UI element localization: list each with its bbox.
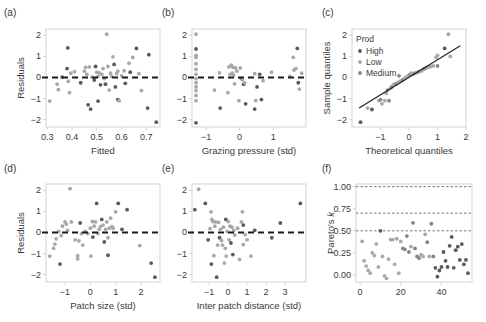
data-point bbox=[194, 32, 198, 36]
data-point bbox=[106, 236, 110, 240]
data-point bbox=[154, 120, 158, 124]
data-point bbox=[425, 240, 429, 244]
data-point bbox=[194, 68, 198, 72]
data-point bbox=[48, 99, 52, 103]
data-point bbox=[423, 232, 427, 236]
data-point bbox=[194, 85, 198, 89]
data-point bbox=[116, 69, 120, 73]
data-point bbox=[194, 81, 198, 85]
y-tick-label: −2 bbox=[177, 270, 187, 280]
data-point bbox=[68, 91, 72, 95]
data-point bbox=[59, 234, 63, 238]
y-tick-label: −1 bbox=[31, 94, 41, 104]
data-point bbox=[69, 71, 73, 75]
data-point bbox=[230, 225, 234, 229]
data-point bbox=[270, 236, 274, 240]
data-point bbox=[194, 121, 198, 125]
data-point bbox=[116, 201, 120, 205]
data-point bbox=[235, 69, 239, 73]
data-point bbox=[149, 261, 153, 265]
data-point bbox=[106, 253, 110, 257]
data-point bbox=[227, 238, 231, 242]
data-point bbox=[193, 208, 197, 212]
legend-entry: High bbox=[366, 46, 384, 56]
data-point bbox=[135, 46, 139, 50]
data-point bbox=[102, 240, 106, 244]
x-tick-label: 20 bbox=[396, 287, 406, 297]
data-point bbox=[128, 70, 132, 74]
data-point bbox=[206, 238, 210, 242]
data-point bbox=[297, 87, 301, 91]
data-point bbox=[240, 210, 244, 214]
data-point bbox=[448, 54, 452, 58]
data-point bbox=[296, 81, 300, 85]
y-tick-label: −1 bbox=[177, 94, 187, 104]
data-point bbox=[213, 88, 217, 92]
y-tick-label: 1 bbox=[182, 51, 187, 61]
x-tick-label: 2 bbox=[264, 287, 269, 297]
data-point bbox=[194, 62, 198, 66]
data-point bbox=[221, 225, 225, 229]
y-tick-label: 0.25 bbox=[333, 248, 351, 258]
data-point bbox=[438, 269, 442, 273]
data-point bbox=[409, 245, 413, 249]
x-tick-label: 1 bbox=[435, 132, 440, 142]
data-point bbox=[76, 257, 80, 261]
data-point bbox=[254, 99, 258, 103]
data-point bbox=[395, 237, 399, 241]
data-point bbox=[91, 235, 95, 239]
data-point bbox=[443, 46, 447, 50]
data-point bbox=[413, 247, 417, 251]
data-point bbox=[368, 271, 372, 275]
data-point bbox=[431, 64, 435, 68]
data-point bbox=[243, 81, 247, 85]
y-tick-label: −2 bbox=[177, 115, 187, 125]
data-point bbox=[295, 46, 299, 50]
plot-area bbox=[356, 187, 472, 281]
data-point bbox=[379, 98, 383, 102]
data-point bbox=[137, 72, 141, 76]
legend-marker bbox=[358, 71, 362, 75]
data-point bbox=[77, 239, 81, 243]
data-point bbox=[238, 258, 242, 262]
data-point bbox=[238, 66, 242, 70]
panel-label: (f) bbox=[322, 163, 331, 174]
data-point bbox=[194, 56, 198, 60]
data-point bbox=[233, 233, 237, 237]
x-tick-label: −1 bbox=[204, 287, 214, 297]
panel-label: (e) bbox=[162, 163, 174, 174]
data-point bbox=[105, 32, 109, 36]
data-point bbox=[215, 275, 219, 279]
data-point bbox=[417, 256, 421, 260]
data-point bbox=[221, 243, 225, 247]
data-point bbox=[374, 242, 378, 246]
y-tick-label: −2 bbox=[337, 115, 347, 125]
data-point bbox=[100, 218, 104, 222]
data-point bbox=[104, 82, 108, 86]
data-point bbox=[81, 243, 85, 247]
data-point bbox=[442, 250, 446, 254]
data-point bbox=[450, 235, 454, 239]
data-point bbox=[366, 106, 370, 110]
data-point bbox=[89, 107, 93, 111]
data-point bbox=[194, 99, 198, 103]
data-point bbox=[462, 262, 466, 266]
x-tick-label: 0.6 bbox=[115, 132, 128, 142]
data-point bbox=[466, 271, 470, 275]
data-point bbox=[125, 208, 129, 212]
legend-entry: Medium bbox=[366, 68, 396, 78]
data-point bbox=[233, 82, 237, 86]
data-point bbox=[458, 258, 462, 262]
data-point bbox=[456, 245, 460, 249]
data-point bbox=[446, 32, 450, 36]
data-point bbox=[236, 226, 240, 230]
x-axis-label: Patch size (std) bbox=[70, 300, 135, 311]
data-point bbox=[113, 85, 117, 89]
data-point bbox=[218, 106, 222, 110]
panel-label: (a) bbox=[4, 7, 16, 18]
data-point bbox=[376, 265, 380, 269]
data-point bbox=[127, 61, 131, 65]
data-point bbox=[383, 99, 387, 103]
data-point bbox=[101, 223, 105, 227]
data-point bbox=[66, 79, 70, 83]
